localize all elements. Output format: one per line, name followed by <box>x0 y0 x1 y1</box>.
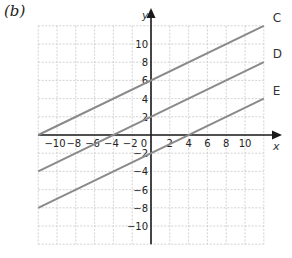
y-tick-label: −10 <box>127 221 148 232</box>
y-tick-label: 4 <box>142 94 148 105</box>
x-tick-label: −10 <box>44 138 65 149</box>
line-label-d: D <box>273 47 282 61</box>
x-axis-arrow-icon <box>272 131 282 140</box>
line-label-c: C <box>273 11 281 25</box>
y-tick-label: −6 <box>133 185 148 196</box>
x-axis-label: x <box>272 140 280 153</box>
y-tick-label: −4 <box>133 166 148 177</box>
y-tick-label: 10 <box>135 39 148 50</box>
y-axis-label: y <box>141 9 149 22</box>
x-tick-label: 6 <box>204 138 210 149</box>
y-tick-label: −8 <box>133 203 148 214</box>
x-tick-label: 10 <box>239 138 252 149</box>
x-tick-label: 4 <box>185 138 191 149</box>
line-label-e: E <box>273 84 281 98</box>
line-chart: xy−10−8−6−4−22468100108642−2−4−6−8−10CDE <box>0 0 292 258</box>
x-tick-label: −8 <box>66 138 81 149</box>
y-tick-label: 8 <box>142 57 148 68</box>
x-tick-label: −4 <box>104 138 119 149</box>
x-tick-label: 8 <box>223 138 229 149</box>
